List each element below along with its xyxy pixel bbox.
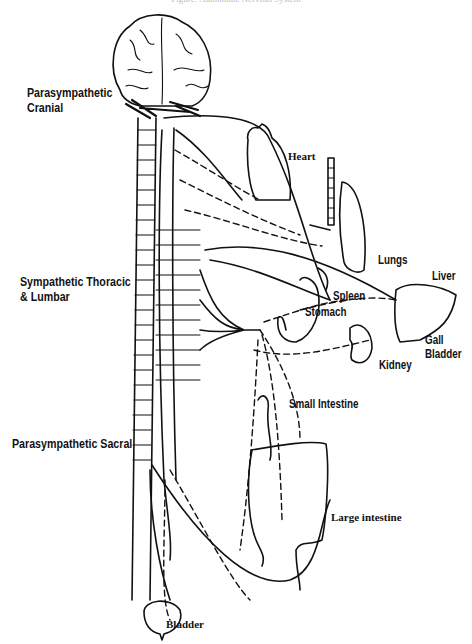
- label-lungs: Lungs: [378, 254, 408, 268]
- large-intestine-icon: [249, 443, 328, 590]
- label-heart: Heart: [288, 150, 315, 163]
- label-sympathetic-thoracic-lumbar: Sympathetic Thoracic & Lumbar: [20, 275, 131, 305]
- label-gall-bladder: Gall Bladder: [425, 334, 462, 362]
- brain-icon: [113, 15, 211, 118]
- label-large-intestine: Large intestine: [331, 511, 402, 524]
- label-stomach: Stomach: [305, 306, 347, 320]
- label-small-intestine: Small Intestine: [289, 398, 358, 412]
- label-parasympathetic-sacral: Parasympathetic Sacral: [12, 437, 132, 452]
- label-bladder: Bladder: [166, 618, 204, 631]
- label-parasympathetic-cranial: Parasympathetic Cranial: [27, 86, 112, 116]
- spleen-icon: [318, 268, 328, 290]
- small-intestine-icon: [258, 396, 271, 460]
- label-kidney: Kidney: [379, 359, 412, 373]
- sympathetic-chain: [156, 128, 200, 560]
- heart-icon: [247, 124, 290, 200]
- label-liver: Liver: [432, 270, 456, 284]
- label-spleen: Spleen: [333, 290, 365, 304]
- lungs-icon: [310, 158, 365, 272]
- spinal-column: [132, 118, 156, 600]
